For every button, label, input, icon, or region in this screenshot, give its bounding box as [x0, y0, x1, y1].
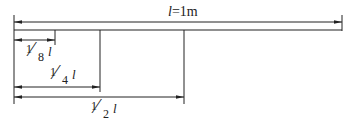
eighth-variable: l	[48, 44, 52, 60]
fraction-slash: ⁄	[30, 38, 33, 61]
length-value: =1m	[172, 4, 198, 19]
half-denominator: 2	[103, 107, 109, 122]
eighth-denominator: 8	[38, 50, 44, 65]
fraction-slash: ⁄	[54, 61, 57, 84]
half-variable: l	[113, 101, 117, 117]
fraction-slash: ⁄	[95, 95, 98, 118]
quarter-denominator: 4	[62, 73, 68, 88]
full-length-label: l=1m	[168, 4, 198, 20]
quarter-variable: l	[72, 67, 76, 83]
